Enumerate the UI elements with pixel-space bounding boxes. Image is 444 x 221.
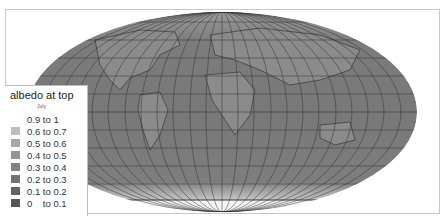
legend-item: 0.1 to 0.2 (11, 187, 67, 196)
legend-subtitle: July (37, 103, 46, 109)
legend-item: 0 to 0.1 (11, 199, 67, 208)
legend-item: 0.3 to 0.4 (11, 163, 67, 172)
legend-item: 0.2 to 0.3 (11, 175, 67, 184)
legend-swatch (11, 199, 20, 207)
legend-swatch (11, 127, 20, 135)
legend-swatch (11, 115, 20, 123)
legend-item: 0.5 to 0.6 (11, 139, 67, 148)
legend-swatch (11, 151, 20, 159)
legend-item: 0.6 to 0.7 (11, 127, 67, 136)
legend-swatch (11, 163, 20, 171)
legend-swatch (11, 187, 20, 195)
legend-swatch (11, 175, 20, 183)
legend-swatch (11, 139, 20, 147)
legend-item: 0.4 to 0.5 (11, 151, 67, 160)
legend-item: 0.9 to 1 (11, 115, 59, 124)
legend-title: albedo at top (10, 89, 74, 101)
legend: albedo at top July 0.9 to 1 0.6 to 0.7 0… (5, 85, 88, 216)
